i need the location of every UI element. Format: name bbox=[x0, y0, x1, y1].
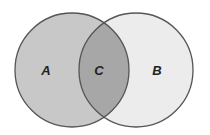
label-a: A bbox=[41, 64, 50, 77]
venn-svg bbox=[0, 0, 210, 135]
label-c: C bbox=[94, 64, 103, 77]
label-b: B bbox=[152, 64, 161, 77]
